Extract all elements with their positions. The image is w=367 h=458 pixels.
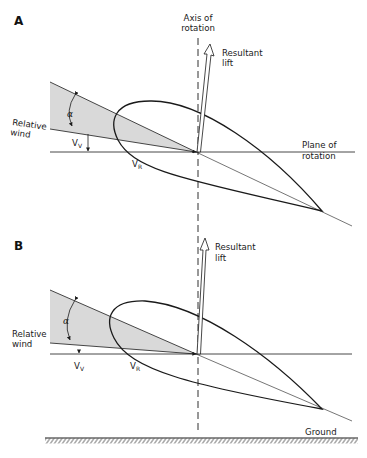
resultant-lift-arrow bbox=[197, 44, 215, 152]
panel-b: B Resultant lift α Relative wind VV VR G… bbox=[12, 238, 358, 444]
lift-label-line2: lift bbox=[222, 58, 234, 68]
panel-b-label: B bbox=[14, 239, 23, 253]
ground-hatching bbox=[45, 439, 358, 444]
airfoil bbox=[110, 301, 322, 409]
panel-a: A Axis of rotation Plane of rotation Res… bbox=[10, 13, 355, 430]
lift-label-line2: lift bbox=[215, 253, 227, 263]
wind-label-line2: wind bbox=[12, 339, 32, 349]
panel-a-label: A bbox=[14, 14, 24, 28]
lift-label-line1: Resultant bbox=[222, 48, 263, 58]
ground-label: Ground bbox=[305, 427, 337, 437]
lift-label-line1: Resultant bbox=[215, 242, 256, 252]
axis-label-line1: Axis of bbox=[184, 13, 214, 23]
plane-label-line2: rotation bbox=[302, 151, 336, 161]
alpha-symbol: α bbox=[67, 109, 73, 119]
wind-label-line1: Relative bbox=[12, 329, 47, 339]
rotor-diagram: A Axis of rotation Plane of rotation Res… bbox=[0, 0, 367, 458]
vr-label: VR bbox=[132, 159, 142, 170]
alpha-symbol: α bbox=[63, 316, 69, 326]
axis-label-line2: rotation bbox=[181, 23, 215, 33]
vv-label: VV bbox=[72, 138, 83, 149]
wind-label-line2: wind bbox=[10, 127, 32, 140]
vr-label: VR bbox=[130, 361, 140, 372]
airfoil bbox=[114, 101, 322, 211]
plane-label-line1: Plane of bbox=[302, 140, 338, 150]
vv-label: VV bbox=[74, 361, 85, 372]
